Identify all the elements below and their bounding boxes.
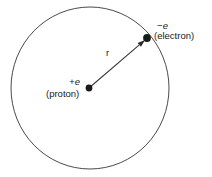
proton-charge-label: +e [69, 77, 80, 87]
electron-name-label: (electron) [154, 31, 194, 41]
proton-dot [86, 85, 93, 92]
proton-name-label: (proton) [46, 89, 79, 99]
radius-arrow-line [89, 45, 139, 88]
diagram-canvas [0, 0, 212, 177]
bohr-atom-diagram: −e (electron) +e (proton) r [0, 0, 212, 177]
radius-label: r [106, 48, 109, 58]
electron-dot [143, 34, 151, 42]
